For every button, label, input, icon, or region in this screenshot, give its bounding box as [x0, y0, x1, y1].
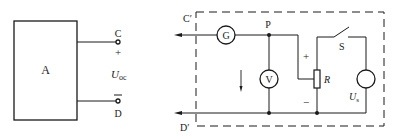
arrow-left-icon	[174, 111, 182, 115]
node-p-label: P	[265, 19, 271, 30]
terminal-c	[116, 40, 120, 44]
network-label: A	[41, 63, 50, 77]
arrow-down-icon	[240, 86, 243, 92]
voltage-label: Uoc	[111, 68, 127, 82]
node-bottom-v	[267, 111, 271, 115]
terminal-c-prime-label: C′	[183, 13, 192, 24]
arrow-left-icon	[174, 33, 182, 37]
terminal-d	[116, 99, 120, 103]
plus-sign: +	[115, 46, 121, 58]
resistor	[314, 70, 320, 88]
terminal-d-prime-label: D′	[180, 122, 189, 133]
measuring-circuit: C′ D′ G P V + − R S	[174, 12, 384, 133]
voltage-source	[357, 70, 375, 88]
switch-blade	[334, 27, 349, 37]
galvanometer-label: G	[222, 30, 229, 41]
node-bottom-r	[315, 111, 319, 115]
voltmeter-label: V	[265, 74, 273, 85]
resistor-label: R	[323, 74, 330, 85]
resistor-minus: −	[303, 96, 309, 108]
terminal-c-label: C	[115, 28, 122, 39]
switch-label: S	[339, 41, 345, 52]
network-a: A C + Uoc D	[14, 21, 127, 120]
source-label: Us	[349, 91, 359, 104]
circuit-diagram: A C + Uoc D C′ D′ G P V	[0, 0, 396, 139]
terminal-d-label: D	[114, 108, 121, 119]
resistor-plus: +	[303, 50, 309, 62]
